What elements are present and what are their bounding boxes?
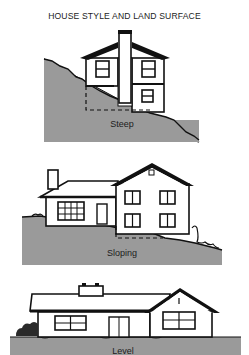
sloping-label: Sloping [107,248,137,258]
level-label: Level [112,346,134,355]
steep-label: Steep [110,119,134,129]
house-diagram: Steep Sloping [0,0,249,355]
level-panel: Level [10,283,241,355]
sloping-panel: Sloping [22,163,222,265]
steep-panel: Steep [44,30,199,142]
